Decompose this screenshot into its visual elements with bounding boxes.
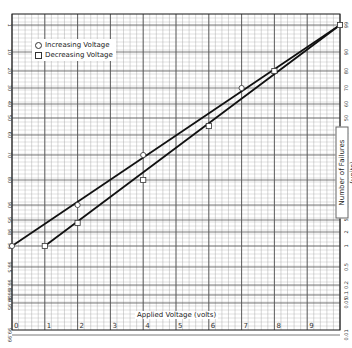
x-axis-title: Applied Voltage (volts)	[135, 311, 218, 319]
y-tick-labels-left: 99.9999.9599.999.899.5999895908070605040…	[7, 23, 13, 342]
legend-label-decreasing: Decreasing Voltage	[45, 50, 113, 60]
y-tick-label: 0.2	[343, 281, 349, 289]
y-tick-label-left: 99.9	[7, 289, 13, 300]
y-tick-label-left: 90	[7, 202, 13, 208]
y-tick-label-left: 50	[7, 115, 13, 121]
x-tick-label: 6	[211, 322, 216, 330]
y-tick-label: 50	[343, 115, 349, 121]
square-marker-icon	[272, 68, 277, 73]
square-marker-icon	[206, 123, 211, 128]
x-tick-label: 2	[80, 322, 84, 330]
y-tick-label-left: 30	[7, 85, 13, 91]
y-tick-label-left: 98	[7, 229, 13, 235]
y-tick-label: 70	[343, 85, 349, 91]
circle-marker-icon	[239, 85, 244, 90]
circle-marker-icon	[35, 42, 42, 49]
y-tick-label-left: 99.5	[7, 261, 13, 272]
circle-marker-icon	[9, 243, 14, 248]
x-tick-label: 8	[276, 322, 280, 330]
y-tick-label: 60	[343, 101, 349, 107]
x-tick-label: 4	[145, 322, 150, 330]
y-tick-label: 0.1	[343, 291, 349, 299]
y-tick-label: 99	[343, 22, 349, 28]
y-tick-label-left: 95	[7, 217, 13, 223]
y-tick-label: 5	[343, 218, 349, 221]
y-tick-label-left: 10	[7, 49, 13, 55]
circle-marker-icon	[141, 152, 146, 157]
legend: Increasing Voltage Decreasing Voltage	[32, 39, 116, 61]
square-marker-icon	[35, 52, 42, 59]
x-tick-label: 9	[309, 322, 313, 330]
legend-label-increasing: Increasing Voltage	[45, 40, 110, 50]
y-tick-label: 0.5	[343, 263, 349, 271]
y-tick-label-left: 99.99	[7, 328, 13, 342]
square-marker-icon	[42, 243, 47, 248]
x-tick-label: 7	[244, 322, 248, 330]
y-tick-label-left: 70	[7, 152, 13, 158]
y-tick-label-left: 1	[7, 23, 13, 26]
y-tick-label: 0.01	[343, 329, 349, 340]
x-tick-label: 3	[112, 322, 116, 330]
circle-marker-icon	[75, 202, 80, 207]
y-tick-label: 90	[343, 49, 349, 55]
y-tick-label-left: 99.8	[7, 279, 13, 290]
square-marker-icon	[141, 177, 146, 182]
y-tick-label: 2	[343, 230, 349, 233]
y-axis-title: Number of Failures (units)	[336, 127, 349, 219]
x-tick-label: 0	[14, 322, 18, 330]
y-tick-label-left: 40	[7, 101, 13, 107]
y-tick-label: 80	[343, 68, 349, 74]
legend-item-decreasing: Decreasing Voltage	[35, 50, 113, 60]
y-tick-label-left: 60	[7, 132, 13, 138]
square-marker-icon	[337, 22, 342, 27]
square-marker-icon	[75, 220, 80, 225]
y-tick-label-left: 20	[7, 68, 13, 74]
x-tick-label: 5	[178, 322, 182, 330]
y-tick-label: 1	[343, 244, 349, 247]
legend-item-increasing: Increasing Voltage	[35, 40, 113, 50]
x-tick-label: 1	[47, 322, 51, 330]
y-tick-label-left: 80	[7, 177, 13, 183]
